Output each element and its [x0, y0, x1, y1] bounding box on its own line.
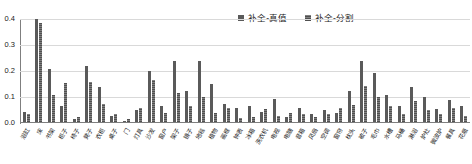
- x-axis-tick: 地毯: [195, 125, 208, 164]
- x-axis-tick-label: 灯具: [133, 127, 144, 140]
- x-axis-tick-label: 衣柜: [95, 127, 106, 140]
- y-axis-tick-label: 0.4: [0, 15, 15, 23]
- x-axis-tick-label: 被子: [358, 127, 369, 140]
- x-axis-tick: 椅子: [70, 125, 83, 164]
- y-axis-tick-label: 0.2: [0, 67, 15, 75]
- x-axis-tick: 窗户: [158, 125, 171, 164]
- x-axis-tick-label: 书架: [45, 127, 56, 140]
- x-axis-tick: 淋浴: [408, 125, 421, 164]
- x-axis-tick: 架子: [170, 125, 183, 164]
- x-axis-tick-label: 餐具: [445, 127, 456, 140]
- y-axis-tick-label: 0.0: [0, 119, 15, 127]
- x-axis-tick-label: 植物: [208, 127, 219, 140]
- x-axis-tick: 洗衣机: [258, 125, 271, 164]
- x-axis-tick: 桌子: [108, 125, 121, 164]
- x-axis-tick-label: 浴缸: [20, 127, 31, 140]
- x-axis-tick-label: 钟表: [233, 127, 244, 140]
- x-axis-tick: 灯具: [133, 125, 146, 164]
- x-axis-tick-label: 桌子: [108, 127, 119, 140]
- x-axis-tick-label: 空调: [320, 127, 331, 140]
- x-axis-tick: 衣柜: [95, 125, 108, 164]
- x-axis-tick-label: 床: [36, 127, 44, 135]
- x-axis-tick: 植物: [208, 125, 221, 164]
- x-axis-tick: 镜子: [183, 125, 196, 164]
- x-axis-tick: 窗帘: [333, 125, 346, 164]
- x-axis-tick-label: 花瓶: [458, 127, 469, 140]
- x-axis-tick-label: 椅子: [70, 127, 81, 140]
- x-axis-tick: 画框: [220, 125, 233, 164]
- x-axis-tick-label: 洗衣机: [255, 127, 269, 146]
- x-axis-tick-label: 音箱: [295, 127, 306, 140]
- x-axis-tick-label: 马桶: [395, 127, 406, 140]
- x-axis-tick: 书架: [45, 125, 58, 164]
- x-axis-tick: 餐具: [445, 125, 458, 164]
- x-axis-tick-label: 镜子: [183, 127, 194, 140]
- x-axis-tick: 炉灶: [420, 125, 433, 164]
- x-axis-tick: 水槽: [383, 125, 396, 164]
- bar-chart: 补全-真值 补全-分割 0.00.10.20.30.4 浴缸床书架柜子椅子凳子衣…: [0, 0, 472, 164]
- x-axis-tick-label: 毛巾: [370, 127, 381, 140]
- y-axis-tick-label: 0.3: [0, 41, 15, 49]
- x-axis-tick-label: 凳子: [83, 127, 94, 140]
- y-axis-ticks: 0.00.10.20.30.4: [20, 19, 470, 123]
- x-axis-tick: 马桶: [395, 125, 408, 164]
- x-axis-tick-label: 电脑: [283, 127, 294, 140]
- x-axis-tick: 毛巾: [370, 125, 383, 164]
- x-axis-tick: 柜子: [58, 125, 71, 164]
- x-axis-tick: 风扇: [308, 125, 321, 164]
- x-axis-tick-label: 门: [123, 127, 131, 135]
- x-axis-tick: 沙发: [145, 125, 158, 164]
- x-axis-tick-label: 水槽: [383, 127, 394, 140]
- x-axis-tick-label: 枕头: [345, 127, 356, 140]
- x-axis-tick: 微波炉: [433, 125, 446, 164]
- x-axis-tick-label: 柜子: [58, 127, 69, 140]
- x-axis-tick-label: 微波炉: [430, 127, 444, 146]
- x-axis-tick-label: 窗户: [158, 127, 169, 140]
- x-axis-tick: 钟表: [233, 125, 246, 164]
- x-axis-tick-label: 电视: [270, 127, 281, 140]
- x-axis-tick: 被子: [358, 125, 371, 164]
- x-axis-tick-label: 炉灶: [420, 127, 431, 140]
- x-axis-tick: 枕头: [345, 125, 358, 164]
- x-axis-tick-label: 窗帘: [333, 127, 344, 140]
- x-axis-tick-label: 画框: [220, 127, 231, 140]
- x-axis-tick: 空调: [320, 125, 333, 164]
- x-axis-tick: 门: [120, 125, 133, 164]
- x-axis-tick-label: 风扇: [308, 127, 319, 140]
- x-axis-tick-label: 冰箱: [245, 127, 256, 140]
- x-axis-tick: 床: [33, 125, 46, 164]
- x-axis-tick: 浴缸: [20, 125, 33, 164]
- y-axis-tick-label: 0.1: [0, 93, 15, 101]
- x-axis-tick: 电视: [270, 125, 283, 164]
- x-axis-tick-label: 淋浴: [408, 127, 419, 140]
- x-axis-tick: 花瓶: [458, 125, 471, 164]
- x-axis-tick: 音箱: [295, 125, 308, 164]
- x-axis-ticks: 浴缸床书架柜子椅子凳子衣柜桌子门灯具沙发窗户架子镜子地毯植物画框钟表冰箱洗衣机电…: [20, 125, 470, 164]
- x-axis-tick: 冰箱: [245, 125, 258, 164]
- x-axis-tick: 凳子: [83, 125, 96, 164]
- x-axis-tick: 电脑: [283, 125, 296, 164]
- x-axis-tick-label: 地毯: [195, 127, 206, 140]
- x-axis-tick-label: 架子: [170, 127, 181, 140]
- x-axis-tick-label: 沙发: [145, 127, 156, 140]
